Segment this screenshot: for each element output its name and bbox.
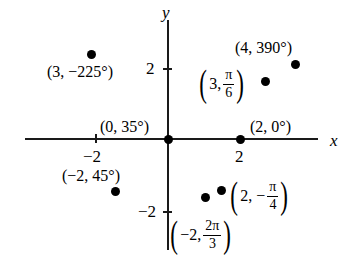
x-tick-label-2: 2 <box>235 148 244 165</box>
paren-open-icon: ( <box>230 181 238 211</box>
fraction-pi-over-4: π 4 <box>267 180 278 212</box>
paren-close-icon: ) <box>281 181 289 211</box>
y-axis-label: y <box>162 4 170 21</box>
point-3-pi-over-6[interactable] <box>261 77 270 86</box>
label-2-0deg: (2, 0°) <box>250 119 291 135</box>
fraction-denominator: 4 <box>267 198 278 213</box>
point-0-35deg-origin[interactable] <box>164 135 173 144</box>
fraction-numerator: 2π <box>203 219 221 234</box>
y-tick-2-mark <box>163 68 172 70</box>
label-neg2-2pi-over-3: ( −2, 2π 3 ) <box>168 219 234 251</box>
paren-close-icon: ) <box>237 69 245 99</box>
x-tick-label-neg2: −2 <box>83 148 101 165</box>
point-neg2-45deg[interactable] <box>111 187 120 196</box>
label-4-390deg: (4, 390°) <box>235 40 292 56</box>
label-0-35deg: (0, 35°) <box>100 119 149 135</box>
paren-open-icon: ( <box>199 69 207 99</box>
point-2-neg-pi-over-4[interactable] <box>217 186 226 195</box>
fraction-2pi-over-3: 2π 3 <box>203 219 221 251</box>
polar-coordinates-plot: x y −2 2 2 −2 (3, −225°) (4, 390°) (0, 3… <box>0 0 355 272</box>
fraction-numerator: π <box>223 68 234 83</box>
x-tick-neg2-mark <box>95 134 97 143</box>
fraction-numerator: π <box>267 180 278 195</box>
point-3-neg225deg[interactable] <box>87 50 96 59</box>
fraction-denominator: 3 <box>207 237 218 252</box>
fraction-denominator: 6 <box>223 86 234 101</box>
point-2-0deg[interactable] <box>236 135 245 144</box>
point-neg2-2pi-over-3[interactable] <box>201 193 210 202</box>
fraction-pi-over-6: π 6 <box>223 68 234 100</box>
x-axis-label: x <box>330 132 338 149</box>
paren-close-icon: ) <box>224 220 232 250</box>
label-neg2-2pi-over-3-radius: −2, <box>180 227 201 243</box>
point-4-390deg[interactable] <box>291 60 300 69</box>
y-tick-neg2-mark <box>163 211 172 213</box>
label-2-neg-pi-over-4-radius: 2, − <box>240 188 265 204</box>
label-2-neg-pi-over-4: ( 2, − π 4 ) <box>228 180 291 212</box>
label-3-neg225deg: (3, −225°) <box>47 64 113 80</box>
y-tick-label-neg2: −2 <box>138 203 156 220</box>
y-tick-label-2: 2 <box>146 60 155 77</box>
label-3-pi-over-6-radius: 3, <box>209 76 221 92</box>
label-neg2-45deg: (−2, 45°) <box>62 168 120 184</box>
paren-open-icon: ( <box>170 220 178 250</box>
label-3-pi-over-6: ( 3, π 6 ) <box>197 68 247 100</box>
